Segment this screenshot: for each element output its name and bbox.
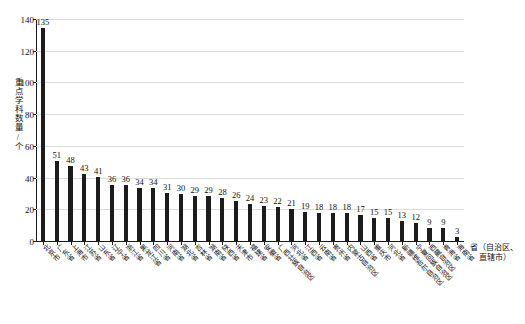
bar-chart: 重点学科数量/个 020406080100120140 135514843413… [0, 0, 525, 324]
bar [193, 196, 197, 242]
bar [414, 223, 418, 242]
y-tick-label: 100 [8, 79, 34, 88]
y-tick-mark [33, 241, 36, 242]
bar [124, 185, 128, 242]
bar [220, 198, 224, 242]
bar [82, 174, 86, 242]
y-tick-label: 140 [8, 16, 34, 25]
bar [206, 196, 210, 242]
y-tick-mark [33, 209, 36, 210]
bar [441, 228, 445, 242]
x-axis-title-line1: 省（自治区、 [470, 243, 518, 252]
bar [137, 188, 141, 242]
y-tick-label: 40 [8, 174, 34, 183]
gridline [36, 51, 464, 52]
x-axis-title-line2: 直辖市） [470, 253, 522, 263]
gridline [36, 146, 464, 147]
bar-value-label: 3 [447, 227, 467, 236]
y-tick-label: 0 [8, 238, 34, 247]
bar [179, 194, 183, 242]
x-axis-title: 省（自治区、 直辖市） [470, 243, 522, 263]
bar [289, 209, 293, 242]
bar [151, 188, 155, 242]
bar [331, 213, 335, 242]
plot-area: 1355148434136363434313029292826242322211… [36, 20, 464, 242]
y-axis-tick-labels: 020406080100120140 [0, 0, 34, 324]
bar [427, 228, 431, 242]
bar-value-label: 135 [33, 18, 53, 27]
y-tick-mark [33, 178, 36, 179]
bar [165, 193, 169, 242]
y-tick-label: 20 [8, 206, 34, 215]
bar [345, 213, 349, 242]
gridline [36, 114, 464, 115]
bar [248, 204, 252, 242]
bar [358, 215, 362, 242]
gridline [36, 19, 464, 20]
y-tick-mark [33, 114, 36, 115]
bar [41, 28, 45, 242]
bar [372, 218, 376, 242]
y-tick-label: 60 [8, 142, 34, 151]
x-axis-tick-labels: 北京市广东省上海市江苏省山东省辽宁省浙江省黑龙江省四川省河南省湖北省吉林省湖南省… [36, 244, 464, 302]
y-tick-mark [33, 51, 36, 52]
bar [262, 206, 266, 242]
bar [317, 213, 321, 242]
bar [68, 166, 72, 242]
bar [96, 177, 100, 242]
bar [234, 201, 238, 242]
bar [55, 161, 59, 242]
y-tick-mark [33, 146, 36, 147]
y-tick-label: 80 [8, 111, 34, 120]
bar [276, 207, 280, 242]
bar-value-label: 9 [433, 218, 453, 227]
gridline [36, 82, 464, 83]
bar [110, 185, 114, 242]
bar [303, 212, 307, 242]
y-tick-mark [33, 82, 36, 83]
bar [400, 221, 404, 242]
bar [386, 218, 390, 242]
y-tick-label: 120 [8, 47, 34, 56]
